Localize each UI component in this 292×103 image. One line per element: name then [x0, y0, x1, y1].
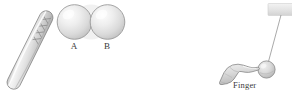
sphere-a-body — [57, 5, 92, 40]
charged-rod — [5, 8, 56, 91]
support-block — [268, 4, 292, 16]
sphere-a-label: A — [68, 41, 80, 51]
sphere-b — [90, 5, 125, 40]
hanging-ball — [258, 61, 275, 78]
rod-highlight — [8, 11, 46, 85]
sphere-pair-group — [57, 5, 125, 40]
suspension-thread — [269, 15, 282, 62]
sphere-a — [57, 5, 92, 40]
pendulum-assembly — [258, 4, 292, 79]
finger-label: Finger — [233, 80, 256, 90]
sphere-b-label: B — [101, 41, 113, 51]
hanging-ball-body — [258, 61, 275, 78]
sphere-b-body — [90, 5, 125, 40]
